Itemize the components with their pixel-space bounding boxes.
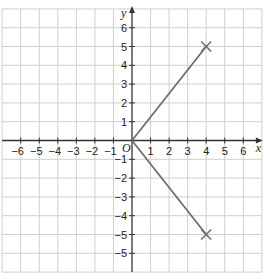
x-tick-label: −3 bbox=[67, 145, 80, 157]
y-tick-label: −3 bbox=[114, 191, 127, 203]
y-tick-label: 6 bbox=[121, 22, 127, 34]
y-tick-label: 5 bbox=[121, 41, 127, 53]
x-axis-label: x bbox=[255, 141, 262, 155]
x-tick-label: −6 bbox=[11, 145, 24, 157]
y-tick-label: −4 bbox=[114, 210, 127, 222]
y-tick-label: −5 bbox=[114, 247, 127, 259]
x-tick-label: 6 bbox=[240, 145, 246, 157]
x-tick-label: 1 bbox=[147, 145, 153, 157]
x-tick-label: −4 bbox=[49, 145, 62, 157]
y-tick-label: 4 bbox=[121, 59, 127, 71]
x-tick-label: 2 bbox=[166, 145, 172, 157]
y-axis-label: y bbox=[120, 6, 127, 20]
coordinate-plane-chart: −6−5−4−3−2−1123456654321−1−2−3−4−5−5 x y… bbox=[0, 0, 264, 279]
x-tick-label: 4 bbox=[203, 145, 209, 157]
y-tick-label: 1 bbox=[121, 116, 127, 128]
x-tick-label: −2 bbox=[86, 145, 99, 157]
y-tick-label: 3 bbox=[121, 78, 127, 90]
y-tick-label: −5 bbox=[114, 229, 127, 241]
origin-label: O bbox=[122, 141, 131, 155]
y-tick-label: 2 bbox=[121, 97, 127, 109]
x-tick-label: −5 bbox=[30, 145, 43, 157]
x-tick-label: 5 bbox=[222, 145, 228, 157]
x-tick-label: 3 bbox=[185, 145, 191, 157]
y-tick-label: −1 bbox=[114, 153, 127, 165]
y-tick-label: −2 bbox=[114, 172, 127, 184]
